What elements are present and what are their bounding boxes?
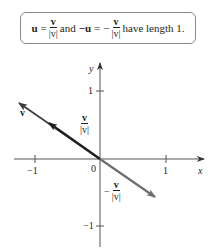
y-tick-label-pos1: 1: [88, 86, 93, 96]
unit-vector: [49, 123, 100, 159]
vector-v-label: v: [20, 108, 25, 118]
unit-vector-label: v |v|: [78, 113, 91, 135]
x-axis-label: x: [198, 166, 202, 176]
y-tick-label-neg1: −1: [83, 221, 94, 231]
fraction-denominator: |v|: [80, 124, 89, 135]
minus-sign: −: [104, 186, 110, 197]
unit-fraction: v |v|: [80, 113, 89, 135]
negative-unit-vector-label: − v |v|: [104, 180, 123, 202]
fraction-numerator: v: [113, 180, 120, 191]
x-tick-label-neg1: −1: [27, 166, 38, 176]
fraction-numerator: v: [81, 113, 88, 124]
y-axis-label: y: [89, 64, 93, 74]
coordinate-plane: [0, 0, 215, 252]
negative-unit-fraction: v |v|: [112, 180, 121, 202]
fraction-denominator: |v|: [112, 191, 121, 202]
x-tick-label-pos1: 1: [163, 166, 168, 176]
origin-label: 0: [91, 164, 96, 174]
